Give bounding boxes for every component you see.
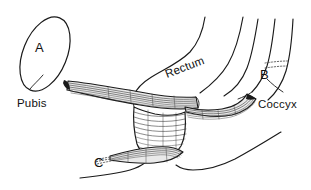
- marker-c-label: C: [94, 155, 103, 170]
- coccyx-column-group: [224, 19, 293, 100]
- coccyx-posterior-border: [268, 19, 293, 100]
- rectum-label: Rectum: [163, 54, 205, 80]
- coccyx-anterior-border: [224, 19, 258, 96]
- band-c-group: [95, 147, 183, 164]
- anatomy-diagram-svg: A B C Pubis Coccyx Rectum: [0, 0, 311, 190]
- marker-a-label: A: [35, 40, 44, 55]
- coccyx-label: Coccyx: [258, 98, 297, 110]
- anatomical-figure: A B C Pubis Coccyx Rectum: [0, 0, 311, 190]
- perineal-contour-group: [176, 132, 281, 170]
- coccyx-attachment-wedge: [246, 94, 256, 100]
- rectum-posterior-wall: [200, 17, 243, 93]
- marker-b-label: B: [260, 67, 269, 82]
- coccyx-leader-line: [267, 79, 283, 92]
- pubis-label: Pubis: [17, 97, 47, 109]
- puborectalis-sling-group: [67, 81, 199, 109]
- puborectalis-sling-body: [67, 81, 198, 109]
- lower-right-contour: [176, 132, 281, 170]
